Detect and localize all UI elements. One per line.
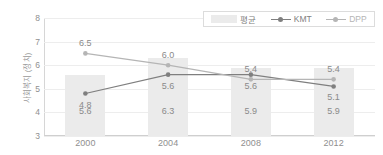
dpp-value-label: 6.0 — [162, 50, 175, 60]
bar-value-label: 6.3 — [162, 106, 175, 116]
line-kmt — [85, 75, 333, 94]
bar-value-label: 5.9 — [245, 106, 258, 116]
y-tick-label: 7 — [20, 37, 40, 46]
legend-item-dpp[interactable]: DPP — [326, 14, 366, 24]
legend-label-kmt: KMT — [294, 14, 312, 24]
data-point-marker — [83, 91, 88, 96]
y-axis-ticks: 876543 — [20, 18, 40, 136]
y-tick-label: 3 — [20, 132, 40, 141]
kmt-value-label: 5.1 — [327, 92, 340, 102]
data-point-marker — [331, 84, 336, 89]
legend-label-dpp: DPP — [349, 14, 366, 24]
legend-item-average[interactable]: 평균 — [211, 13, 256, 25]
legend-label-average: 평균 — [240, 13, 256, 25]
dpp-value-label: 5.4 — [327, 64, 340, 74]
x-tick-label: 2008 — [241, 138, 261, 148]
legend-item-kmt[interactable]: KMT — [271, 14, 312, 24]
x-tick-label: 2012 — [324, 138, 344, 148]
data-point-marker — [83, 51, 88, 56]
gridline — [44, 136, 375, 137]
kmt-value-label: 4.8 — [79, 100, 92, 110]
x-tick-label: 2000 — [75, 138, 95, 148]
kmt-value-label: 5.6 — [245, 81, 258, 91]
line-dpp — [85, 53, 333, 79]
line-series-layer — [44, 18, 375, 136]
dpp-value-label: 6.5 — [79, 38, 92, 48]
line-marker-icon — [271, 15, 291, 23]
x-tick-label: 2004 — [158, 138, 178, 148]
chart-container: 사회복지 (정치) 876543 5.66.35.95.94.85.65.65.… — [0, 0, 383, 155]
x-axis-ticks: 2000200420082012 — [44, 138, 375, 152]
y-tick-label: 4 — [20, 108, 40, 117]
data-point-marker — [331, 77, 336, 82]
y-tick-label: 8 — [20, 14, 40, 23]
kmt-value-label: 5.6 — [162, 81, 175, 91]
bar-swatch-icon — [211, 15, 237, 23]
data-point-marker — [166, 63, 171, 68]
chart-legend[interactable]: 평균 KMT DPP — [203, 11, 375, 27]
line-marker-icon — [326, 15, 346, 23]
y-tick-label: 5 — [20, 85, 40, 94]
plot-area: 5.66.35.95.94.85.65.65.16.56.05.45.4 — [44, 18, 375, 136]
bar-value-label: 5.9 — [327, 106, 340, 116]
data-point-marker — [166, 72, 171, 77]
dpp-value-label: 5.4 — [245, 64, 258, 74]
y-tick-label: 6 — [20, 61, 40, 70]
